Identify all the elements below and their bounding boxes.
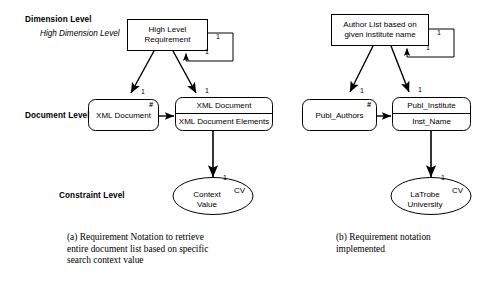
panel-a-hlr-label-line2: Requirement xyxy=(128,35,208,45)
caption-a: (a) Requirement Notation to retrieve ent… xyxy=(67,232,227,267)
panel-b-constraint-cardinality: 1 xyxy=(441,174,445,181)
caption-b: (b) Requirement notation implemented xyxy=(336,232,466,255)
panel-a-self-loop-cardinality-right: 1 xyxy=(216,33,220,40)
panel-a-right-doc-cardinality: 1 xyxy=(205,87,209,94)
panel-b-hlr-label-line1: Author List based on xyxy=(332,20,429,30)
panel-a-constraint-cardinality: 1 xyxy=(223,174,227,181)
panel-b-constraint-label-line1: LaTrobe xyxy=(398,190,452,200)
level-label-dimension: Dimension Level xyxy=(25,15,92,24)
panel-a-edge-hlr-to-left-doc xyxy=(131,51,154,93)
panel-b-self-loop-cardinality-bottom: 1 xyxy=(426,44,430,51)
panel-b-left-doc-cardinality: 1 xyxy=(360,87,364,94)
panel-b-left-doc-label: Publ_Authors xyxy=(303,111,377,121)
panel-b-edge-hlr-to-left-doc xyxy=(350,46,373,92)
panel-a-right-doc-body-label: XML Document Elements xyxy=(176,117,273,127)
panel-b-right-doc-body-label: Inst_Name xyxy=(393,117,471,127)
level-label-document: Document Level xyxy=(25,111,90,120)
panel-a-right-doc-header-label: XML Document xyxy=(176,101,273,111)
panel-a-hlr-label-line1: High Level xyxy=(128,25,208,35)
panel-a-edge-hlr-to-right-doc xyxy=(173,51,196,93)
panel-b-constraint-label-line2: University xyxy=(398,200,452,210)
panel-b-constraint-cv-tag: CV xyxy=(452,186,463,195)
panel-b-left-doc-key-icon: # xyxy=(367,100,371,109)
figure-container: Dimension Level High Dimension Level Doc… xyxy=(0,0,497,281)
panel-b-self-loop-cardinality-right: 1 xyxy=(437,29,441,36)
panel-a-left-doc-key-icon: # xyxy=(149,100,153,109)
panel-b-edge-hlr-to-right-doc xyxy=(391,46,409,92)
panel-a-constraint-label-line2: Value xyxy=(180,200,234,210)
level-label-constraint: Constraint Level xyxy=(59,191,125,200)
panel-a-constraint-cv-tag: CV xyxy=(234,186,245,195)
panel-a-left-doc-cardinality: 1 xyxy=(141,88,145,95)
panel-b-hlr-label-line2: given institute name xyxy=(332,30,429,40)
panel-a-self-loop-cardinality-bottom: 1 xyxy=(205,48,209,55)
level-sublabel-high-dimension: High Dimension Level xyxy=(40,29,120,38)
panel-b-right-doc-cardinality: 1 xyxy=(418,86,422,93)
panel-a-constraint-label-line1: Context xyxy=(180,190,234,200)
panel-a-left-doc-label: XML Document xyxy=(89,111,159,121)
panel-b-right-doc-header-label: Publ_Institute xyxy=(393,101,471,111)
